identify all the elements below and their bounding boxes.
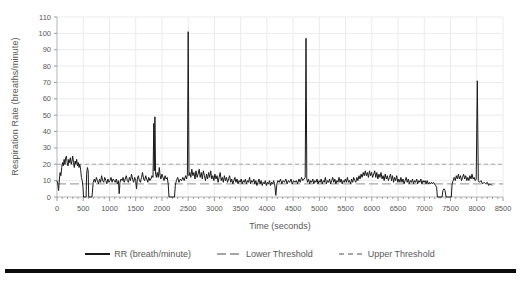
svg-text:7000: 7000 xyxy=(416,204,433,213)
svg-text:80: 80 xyxy=(43,62,51,71)
svg-text:20: 20 xyxy=(43,160,51,169)
svg-text:70: 70 xyxy=(43,78,51,87)
svg-text:4500: 4500 xyxy=(285,204,302,213)
svg-text:90: 90 xyxy=(43,45,51,54)
legend-label-upper-threshold: Upper Threshold xyxy=(368,249,435,259)
chart-figure: 0102030405060708090100110050010001500200… xyxy=(0,0,520,281)
svg-text:6500: 6500 xyxy=(390,204,407,213)
svg-text:10: 10 xyxy=(43,176,51,185)
svg-text:3000: 3000 xyxy=(206,204,223,213)
svg-text:500: 500 xyxy=(77,204,90,213)
rr-line-sample-icon xyxy=(85,253,110,255)
bottom-divider xyxy=(5,269,516,273)
svg-text:5500: 5500 xyxy=(337,204,354,213)
legend-label-lower-threshold: Lower Threshold xyxy=(246,249,313,259)
svg-text:2500: 2500 xyxy=(180,204,197,213)
svg-text:8500: 8500 xyxy=(495,204,512,213)
upper-threshold-line-sample-icon xyxy=(339,253,364,255)
y-axis-title: Respiration Rate (breaths/minute) xyxy=(10,12,23,202)
x-axis-title: Time (seconds) xyxy=(57,221,503,233)
legend-item-lower-threshold: Lower Threshold xyxy=(217,249,313,259)
chart-legend: RR (breath/minute) Lower Threshold Upper… xyxy=(0,247,520,261)
svg-text:7500: 7500 xyxy=(442,204,459,213)
svg-text:3500: 3500 xyxy=(232,204,249,213)
svg-text:60: 60 xyxy=(43,94,51,103)
svg-text:2000: 2000 xyxy=(154,204,171,213)
svg-text:6000: 6000 xyxy=(363,204,380,213)
svg-text:50: 50 xyxy=(43,111,51,120)
svg-text:1500: 1500 xyxy=(127,204,144,213)
svg-text:1000: 1000 xyxy=(101,204,118,213)
legend-item-upper-threshold: Upper Threshold xyxy=(339,249,435,259)
svg-text:0: 0 xyxy=(47,193,51,202)
legend-label-rr: RR (breath/minute) xyxy=(114,249,191,259)
lower-threshold-line-sample-icon xyxy=(217,253,242,255)
chart-canvas: 0102030405060708090100110050010001500200… xyxy=(0,0,520,238)
legend-item-rr: RR (breath/minute) xyxy=(85,249,191,259)
svg-text:40: 40 xyxy=(43,127,51,136)
svg-text:8000: 8000 xyxy=(468,204,485,213)
svg-text:30: 30 xyxy=(43,143,51,152)
svg-text:4000: 4000 xyxy=(259,204,276,213)
svg-text:100: 100 xyxy=(38,29,51,38)
svg-text:5000: 5000 xyxy=(311,204,328,213)
svg-text:0: 0 xyxy=(55,204,59,213)
svg-text:110: 110 xyxy=(39,13,51,22)
